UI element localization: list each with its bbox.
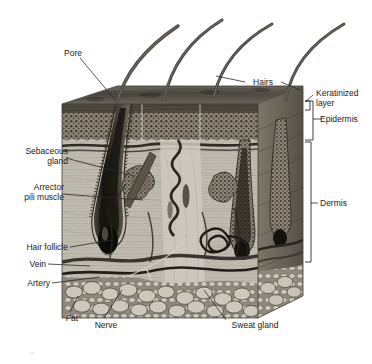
label-vein: Vein bbox=[10, 259, 46, 269]
label-sebaceous-gland: Sebaceous gland bbox=[6, 146, 68, 166]
label-sweat-gland: Sweat gland bbox=[222, 320, 288, 330]
figure-caption-text: Figure The structure of the skin bbox=[22, 352, 222, 354]
skin-block-front-face bbox=[62, 104, 259, 318]
subcutaneous-fat bbox=[62, 276, 259, 318]
figure-caption-clipped: Figure The structure of the skin bbox=[22, 352, 222, 363]
label-keratinized-layer: Keratinized layer bbox=[316, 88, 370, 108]
label-artery: Artery bbox=[10, 278, 50, 288]
label-fat: Fat bbox=[58, 313, 86, 323]
keratinized-layer-band bbox=[62, 104, 258, 113]
label-arrector-pili-muscle: Arrector pili muscle bbox=[4, 182, 64, 202]
label-hairs: Hairs bbox=[246, 77, 280, 87]
label-dermis: Dermis bbox=[320, 198, 368, 208]
label-hair-follicle: Hair follicle bbox=[4, 242, 68, 252]
skin-block-side-face bbox=[256, 0, 306, 318]
label-epidermis: Epidermis bbox=[320, 114, 370, 124]
figure-root: Pore Hairs Keratinized layer Epidermis D… bbox=[0, 0, 372, 364]
label-nerve: Nerve bbox=[88, 320, 124, 330]
label-pore: Pore bbox=[46, 48, 82, 58]
epidermis-band bbox=[62, 113, 258, 139]
